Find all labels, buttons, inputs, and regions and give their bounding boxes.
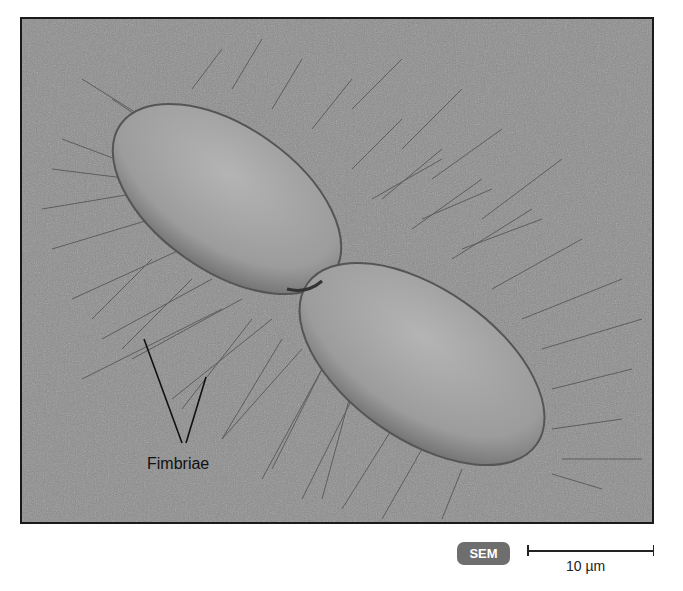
scale-bar — [527, 545, 654, 556]
sem-badge: SEM — [457, 542, 510, 565]
fimbriae-label: Fimbriae — [147, 455, 209, 473]
scale-bar-line — [527, 550, 654, 552]
scale-bar-tick-right — [653, 545, 655, 556]
micrograph — [20, 17, 654, 524]
scale-bar-label: 10 µm — [566, 558, 605, 574]
scale-bar-tick-left — [527, 545, 529, 556]
sem-image — [22, 19, 654, 524]
